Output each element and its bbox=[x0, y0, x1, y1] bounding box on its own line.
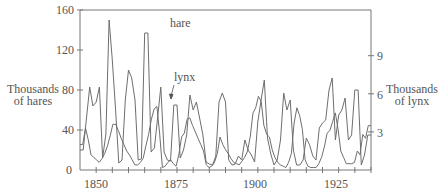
x-tick-1850: 1850 bbox=[84, 177, 108, 191]
x-tick-1925: 1925 bbox=[324, 177, 348, 191]
left-tick-0: 0 bbox=[66, 163, 72, 177]
right-tick-6: 6 bbox=[377, 88, 383, 102]
left-tick-120: 120 bbox=[56, 43, 74, 57]
plot-frame bbox=[80, 10, 371, 170]
chart-svg: 0 40 80 120 160 3 6 9 1850 1875 1900 192… bbox=[0, 0, 444, 195]
axis-ticks bbox=[77, 10, 374, 173]
x-tick-1900: 1900 bbox=[243, 177, 267, 191]
x-tick-1875: 1875 bbox=[164, 177, 188, 191]
left-tick-160: 160 bbox=[56, 3, 74, 17]
left-axis-title-line2: of hares bbox=[14, 94, 53, 108]
lynx-arrow-icon bbox=[170, 85, 175, 99]
lynx-series-label: lynx bbox=[174, 70, 195, 84]
left-tick-40: 40 bbox=[62, 123, 74, 137]
hare-series-label: hare bbox=[170, 16, 191, 30]
right-tick-9: 9 bbox=[377, 49, 383, 63]
data-series bbox=[80, 20, 371, 168]
right-axis-title-line2: of lynx bbox=[395, 94, 429, 108]
right-tick-3: 3 bbox=[377, 126, 383, 140]
left-tick-80: 80 bbox=[62, 83, 74, 97]
